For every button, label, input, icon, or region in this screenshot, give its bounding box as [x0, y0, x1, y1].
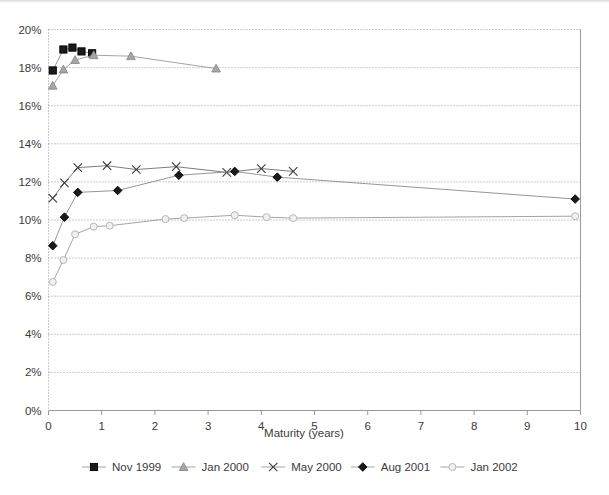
- y-tick-label: 0%: [25, 405, 42, 417]
- plot-series-group: [48, 44, 579, 285]
- data-point-cross: [49, 194, 57, 202]
- data-point-open-circle: [60, 257, 67, 264]
- legend-item-jan-2000[interactable]: Jan 2000: [172, 461, 249, 473]
- data-point-open-circle: [449, 464, 456, 471]
- y-tick-label: 12%: [18, 176, 41, 188]
- data-point-filled-square: [78, 48, 85, 55]
- x-tick-label: 8: [471, 420, 477, 432]
- legend-item-nov-1999[interactable]: Nov 1999: [82, 461, 161, 473]
- data-point-open-circle: [72, 231, 79, 238]
- x-tick-label: 7: [418, 420, 424, 432]
- series-jan-2002: [49, 212, 578, 286]
- y-tick-label: 14%: [18, 138, 41, 150]
- data-point-filled-diamond: [73, 188, 82, 197]
- x-tick-label: 2: [152, 420, 158, 432]
- data-point-cross: [60, 179, 68, 187]
- x-tick-label: 6: [364, 420, 370, 432]
- y-tick-label: 16%: [18, 100, 41, 112]
- legend-label: Nov 1999: [112, 461, 161, 473]
- data-point-open-circle: [572, 213, 579, 220]
- data-point-open-circle: [106, 222, 113, 229]
- data-point-filled-triangle: [59, 65, 68, 73]
- y-tick-label: 20%: [18, 24, 41, 36]
- x-tick-label: 3: [205, 420, 211, 432]
- data-point-filled-triangle: [48, 81, 57, 89]
- series-line: [53, 215, 575, 282]
- data-point-open-circle: [231, 212, 238, 219]
- legend-label: Jan 2002: [470, 461, 517, 473]
- data-point-filled-diamond: [230, 167, 239, 176]
- data-point-filled-diamond: [48, 241, 57, 250]
- data-point-filled-diamond: [175, 171, 184, 180]
- legend: Nov 1999Jan 2000May 2000Aug 2001Jan 2002: [82, 461, 518, 473]
- data-point-open-circle: [181, 215, 188, 222]
- data-point-filled-square: [49, 67, 56, 74]
- legend-label: Jan 2000: [202, 461, 249, 473]
- x-tick-label: 9: [524, 420, 530, 432]
- x-axis-title: Maturity (years): [264, 427, 344, 439]
- data-point-open-circle: [90, 223, 97, 230]
- legend-item-jan-2002[interactable]: Jan 2002: [440, 461, 517, 473]
- data-point-open-circle: [290, 215, 297, 222]
- gridlines-group: [49, 30, 581, 411]
- data-point-filled-diamond: [571, 195, 580, 204]
- x-tick-label: 1: [98, 420, 104, 432]
- y-tick-label: 10%: [18, 214, 41, 226]
- series-aug-2001: [48, 167, 579, 250]
- data-point-filled-diamond: [273, 173, 282, 182]
- y-tick-label: 18%: [18, 62, 41, 74]
- legend-item-may-2000[interactable]: May 2000: [261, 461, 342, 473]
- axes-group: [49, 30, 581, 416]
- data-point-filled-diamond: [359, 463, 368, 472]
- data-point-open-circle: [162, 216, 169, 223]
- data-point-filled-square: [69, 44, 76, 51]
- top-divider: [0, 0, 609, 3]
- y-tick-label: 8%: [25, 252, 42, 264]
- y-tick-label: 2%: [25, 366, 42, 378]
- x-tick-label: 0: [45, 420, 51, 432]
- legend-label: Aug 2001: [381, 461, 430, 473]
- legend-item-aug-2001[interactable]: Aug 2001: [351, 461, 430, 473]
- x-tick-label: 10: [574, 420, 587, 432]
- data-point-open-circle: [49, 278, 56, 285]
- series-jan-2000: [48, 51, 220, 89]
- data-point-filled-square: [90, 463, 97, 470]
- legend-label: May 2000: [291, 461, 342, 473]
- data-point-filled-square: [60, 46, 67, 53]
- series-may-2000: [49, 162, 298, 203]
- data-point-open-circle: [263, 214, 270, 221]
- data-point-filled-diamond: [113, 186, 122, 195]
- y-tick-label: 4%: [25, 328, 42, 340]
- y-tick-labels-group: 0%2%4%6%8%10%12%14%16%18%20%: [18, 24, 41, 417]
- y-tick-label: 6%: [25, 290, 42, 302]
- yield-curve-chart: 0%2%4%6%8%10%12%14%16%18%20% 01234567891…: [0, 0, 609, 495]
- series-line: [53, 171, 575, 245]
- chart-figure: 0%2%4%6%8%10%12%14%16%18%20% 01234567891…: [0, 0, 609, 495]
